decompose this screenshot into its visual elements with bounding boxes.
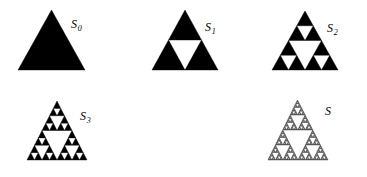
sub-triangle — [50, 108, 58, 115]
figure-label-s0: S0 — [71, 18, 82, 33]
label-subscript: 2 — [333, 28, 338, 37]
triangle-group — [268, 100, 328, 160]
sub-triangle — [297, 11, 314, 26]
figure-label-s2: S2 — [327, 22, 338, 37]
sub-triangle — [80, 153, 88, 160]
sub-triangle — [61, 145, 69, 152]
sierpinski-panel-s1 — [150, 8, 220, 72]
sub-triangle — [50, 123, 58, 130]
label-symbol: S — [325, 104, 331, 118]
sub-triangle — [65, 153, 73, 160]
sub-triangle — [305, 26, 322, 41]
sub-triangle — [35, 138, 43, 145]
sub-triangle — [50, 153, 58, 160]
sierpinski-triangle-s2 — [270, 9, 340, 72]
sub-triangle — [305, 55, 322, 70]
triangle-group — [272, 11, 338, 70]
figure-label-s1: S1 — [205, 21, 216, 36]
sub-triangle — [322, 55, 339, 70]
sierpinski-figure: S0S1S2S3S — [0, 0, 367, 177]
sierpinski-panel-s2 — [270, 9, 340, 72]
sub-triangle — [53, 101, 61, 108]
sub-triangle — [280, 41, 297, 56]
sub-triangle — [72, 138, 80, 145]
label-subscript: 3 — [86, 116, 91, 125]
sub-triangle — [65, 138, 73, 145]
sub-triangle — [27, 153, 35, 160]
sub-triangle — [72, 153, 80, 160]
sub-triangle — [46, 116, 54, 123]
sub-triangle — [42, 123, 50, 130]
sierpinski-triangle-s1 — [150, 8, 220, 72]
sub-triangle — [272, 55, 289, 70]
sub-triangle — [76, 145, 84, 152]
label-subscript: 1 — [211, 27, 216, 36]
sub-triangle — [57, 153, 65, 160]
sub-triangle — [152, 40, 185, 70]
sub-triangle — [57, 108, 65, 115]
sub-triangle — [289, 55, 306, 70]
sub-triangle — [42, 153, 50, 160]
label-subscript: 0 — [77, 24, 82, 33]
sub-triangle — [65, 123, 73, 130]
sub-triangle — [185, 40, 218, 70]
sierpinski-panel-s — [266, 98, 330, 162]
triangle-group — [27, 101, 87, 160]
figure-label-s3: S3 — [80, 110, 91, 125]
sub-triangle — [68, 131, 76, 138]
sub-triangle — [35, 153, 43, 160]
sub-triangle — [46, 145, 54, 152]
sub-triangle — [57, 123, 65, 130]
sub-triangle — [61, 116, 69, 123]
sub-triangle — [297, 100, 298, 101]
sub-triangle — [313, 41, 330, 56]
triangle-group — [152, 10, 218, 70]
sub-triangle — [38, 131, 46, 138]
sierpinski-triangle-s — [266, 98, 330, 162]
sub-triangle — [31, 145, 39, 152]
sub-triangle — [169, 10, 202, 40]
figure-label-s: S — [325, 105, 331, 117]
sub-triangle — [42, 138, 50, 145]
sub-triangle — [289, 26, 306, 41]
